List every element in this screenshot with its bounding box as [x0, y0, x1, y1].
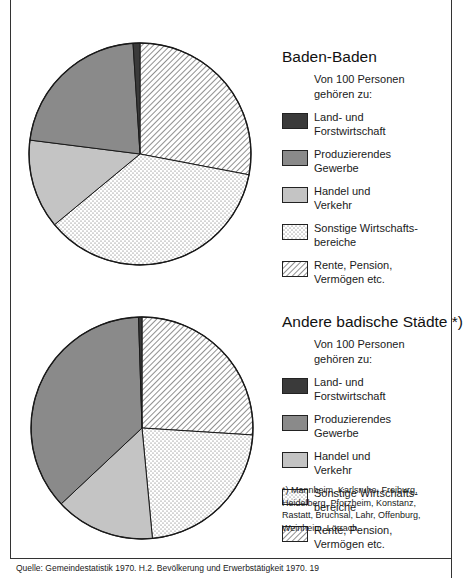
footnote-city-list: *) Mannheim, Karlsruhe, Freiburg, Heidel…: [282, 484, 447, 534]
swatch-dark-gray: [282, 378, 308, 394]
legend-item-land: Land- undForstwirtschaft: [282, 110, 457, 140]
legend-label: ProduzierendesGewerbe: [314, 412, 434, 440]
legend-subtitle: Von 100 Personen gehören zu:: [314, 337, 457, 367]
swatch-hatched: [282, 261, 308, 277]
pie-chart-andere-staedte: [31, 317, 253, 539]
subtitle-line: gehören zu:: [314, 87, 457, 102]
subtitle-line: gehören zu:: [314, 352, 457, 367]
legend-item-sonstige: Sonstige Wirtschafts-bereiche: [282, 221, 457, 251]
source-citation: Quelle: Gemeindestatistik 1970. H.2. Bev…: [16, 563, 319, 573]
legend-item-produzierendes: ProduzierendesGewerbe: [282, 147, 457, 177]
slice-produzierendes: [30, 43, 140, 154]
subtitle-line: Von 100 Personen: [314, 72, 457, 87]
chart-title: Andere badische Städte *): [282, 313, 457, 331]
swatch-mid-gray: [282, 415, 308, 431]
subtitle-line: Von 100 Personen: [314, 337, 457, 352]
slice-rente: [142, 317, 253, 435]
swatch-light-gray: [282, 452, 308, 468]
legend-label: Handel undVerkehr: [314, 449, 434, 477]
legend-item-produzierendes: ProduzierendesGewerbe: [282, 412, 457, 442]
legend-baden-baden: Baden-Baden Von 100 Personen gehören zu:…: [282, 48, 457, 295]
legend-item-handel: Handel undVerkehr: [282, 184, 457, 214]
legend-label: ProduzierendesGewerbe: [314, 147, 434, 175]
swatch-light-gray: [282, 187, 308, 203]
legend-item-land: Land- undForstwirtschaft: [282, 375, 457, 405]
legend-label: Land- undForstwirtschaft: [314, 375, 434, 403]
legend-item-handel: Handel undVerkehr: [282, 449, 457, 479]
slice-sonstige: [142, 428, 253, 539]
legend-item-rente: Rente, Pension,Vermögen etc.: [282, 258, 457, 288]
chart-title: Baden-Baden: [282, 48, 457, 66]
legend-label: Handel undVerkehr: [314, 184, 434, 212]
swatch-mid-gray: [282, 150, 308, 166]
legend-label: Rente, Pension,Vermögen etc.: [314, 258, 434, 286]
legend-label: Sonstige Wirtschafts-bereiche: [314, 221, 434, 249]
swatch-dark-gray: [282, 113, 308, 129]
pie-chart-baden-baden: [29, 43, 251, 265]
legend-label: Land- undForstwirtschaft: [314, 110, 434, 138]
legend-subtitle: Von 100 Personen gehören zu:: [314, 72, 457, 102]
slice-rente: [140, 43, 251, 175]
swatch-dotted: [282, 224, 308, 240]
